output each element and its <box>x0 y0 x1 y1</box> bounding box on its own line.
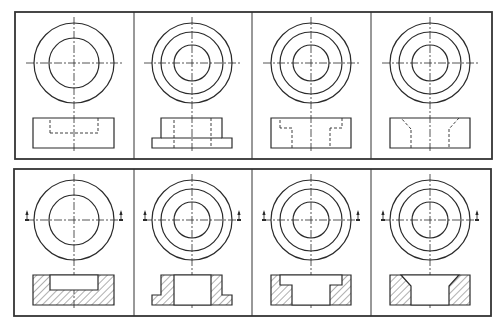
part-blind-pocket-disc <box>25 174 123 310</box>
section-cavity <box>50 275 98 290</box>
part-flanged-bushing <box>143 174 241 310</box>
section-arrow-head <box>143 210 146 215</box>
hidden-line <box>449 118 459 129</box>
views-exterior <box>15 12 492 159</box>
section-arrow-head <box>356 210 359 215</box>
orthographic-views-canvas <box>0 0 503 327</box>
part-counterbored-disc <box>262 174 360 310</box>
section-cavity <box>174 275 211 305</box>
engineering-drawing-sheet <box>0 0 503 327</box>
drawing-layer <box>14 12 492 316</box>
section-arrow-head <box>25 210 28 215</box>
hidden-line <box>401 118 411 129</box>
part-counterbored-disc <box>263 17 359 153</box>
part-countersunk-disc <box>382 17 478 153</box>
part-flanged-bushing <box>144 17 240 153</box>
section-arrow-head <box>381 210 384 215</box>
part-countersunk-disc <box>381 174 479 310</box>
section-arrow-head <box>475 210 478 215</box>
part-blind-pocket-disc <box>26 17 122 153</box>
section-arrow-head <box>262 210 265 215</box>
section-arrow-head <box>119 210 122 215</box>
views-sectioned <box>14 169 491 316</box>
section-arrow-head <box>237 210 240 215</box>
front-view-outline <box>33 118 114 148</box>
